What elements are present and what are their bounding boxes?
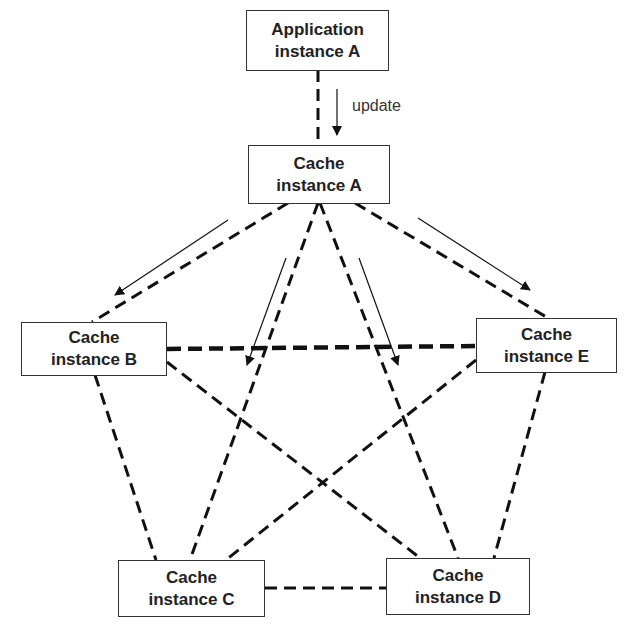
node-title: Cache [293, 153, 344, 175]
edge-cache-b-cache-d [167, 362, 420, 558]
node-cache-instance-b: Cache instance B [21, 322, 167, 376]
node-application-instance-a: Application instance A [246, 10, 389, 71]
node-title: Cache [68, 327, 119, 349]
edge-cache-e-cache-c [226, 360, 476, 560]
arrow-to-cache-b [115, 220, 228, 295]
node-subtitle: instance C [149, 589, 235, 611]
node-title: Application [271, 19, 364, 41]
node-title: Cache [166, 567, 217, 589]
connection-lines [0, 0, 633, 626]
node-cache-instance-d: Cache instance D [386, 558, 530, 615]
node-cache-instance-a: Cache instance A [248, 145, 390, 204]
edge-cache-b-cache-c [95, 375, 156, 560]
node-subtitle: instance A [276, 175, 361, 197]
node-cache-instance-e: Cache instance E [476, 318, 617, 373]
edge-cache-a-cache-b [92, 203, 288, 322]
node-title: Cache [432, 565, 483, 587]
node-cache-instance-c: Cache instance C [118, 560, 265, 617]
node-title: Cache [521, 324, 572, 346]
node-subtitle: instance B [51, 349, 137, 371]
edge-cache-a-cache-e [355, 203, 548, 318]
edge-cache-e-cache-d [494, 372, 545, 558]
node-subtitle: instance D [415, 587, 501, 609]
update-label: update [352, 97, 401, 115]
node-subtitle: instance E [504, 346, 589, 368]
arrow-to-cache-e [418, 218, 530, 290]
edge-cache-a-cache-d [320, 203, 458, 558]
node-subtitle: instance A [275, 41, 360, 63]
edge-cache-b-cache-e [167, 346, 476, 349]
edge-cache-a-cache-c [190, 203, 318, 560]
